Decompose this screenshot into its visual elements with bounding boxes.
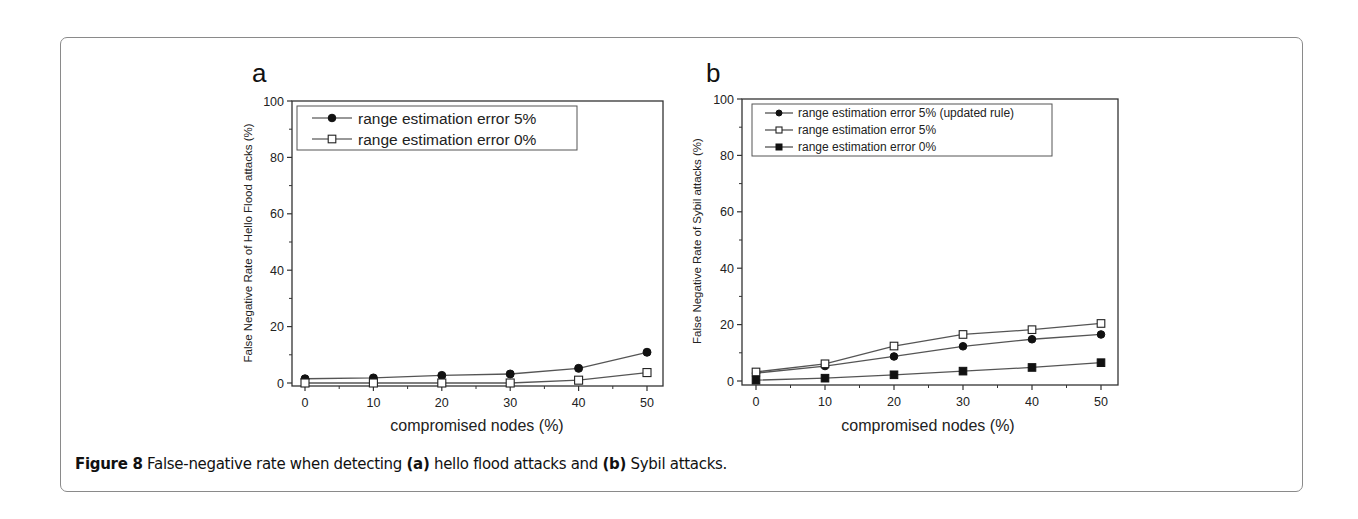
data-point: [575, 364, 583, 372]
x-tick-label: 10: [366, 396, 380, 410]
data-point: [1028, 335, 1036, 343]
data-point: [959, 367, 967, 375]
data-point: [821, 360, 829, 368]
figure-caption: Figure 8 False-negative rate when detect…: [75, 455, 727, 473]
data-point: [890, 371, 898, 379]
legend-b: range estimation error 5% (updated rule)…: [752, 104, 1052, 156]
legend-label: range estimation error 0%: [358, 131, 537, 148]
x-tick-label: 10: [818, 395, 832, 409]
data-point: [959, 343, 967, 351]
caption-end: Sybil attacks.: [626, 455, 727, 473]
legend-label: range estimation error 5%: [358, 110, 537, 127]
panel-label-a: a: [252, 58, 267, 88]
y-tick-label: 40: [270, 264, 284, 278]
x-tick-label: 0: [302, 396, 309, 410]
y-tick-label: 40: [720, 262, 734, 276]
data-point: [438, 379, 446, 387]
data-point: [643, 369, 651, 377]
data-point: [959, 331, 967, 339]
series-group-b: [752, 320, 1105, 384]
data-point: [1028, 326, 1036, 334]
data-point: [369, 379, 377, 387]
data-point: [890, 342, 898, 350]
y-tick-label: 20: [270, 320, 284, 334]
data-point: [1028, 364, 1036, 372]
data-point: [890, 353, 898, 361]
legend-marker-icon: [328, 135, 336, 143]
y-tick-label: 100: [263, 95, 284, 109]
y-tick-label: 0: [277, 377, 284, 391]
y-tick-label: 80: [270, 151, 284, 165]
x-axis-title-a: compromised nodes (%): [390, 417, 563, 434]
caption-mid: hello flood attacks and: [429, 455, 602, 473]
legend-label: range estimation error 5%: [798, 123, 936, 137]
data-point: [643, 348, 651, 356]
series-group-a: [301, 348, 651, 387]
data-point: [301, 379, 309, 387]
legend-a: range estimation error 5%range estimatio…: [297, 106, 577, 150]
x-tick-label: 50: [640, 396, 654, 410]
caption-text: False-negative rate when detecting: [143, 455, 407, 473]
x-tick-label: 30: [956, 395, 970, 409]
series-0: [752, 331, 1105, 377]
x-tick-label: 30: [503, 396, 517, 410]
legend-marker-icon: [776, 127, 782, 133]
x-tick-label: 50: [1094, 395, 1108, 409]
x-tick-label: 20: [887, 395, 901, 409]
y-tick-label: 60: [270, 207, 284, 221]
y-axis-title-b: False Negative Rate of Sybil attacks (%): [691, 138, 703, 344]
x-tick-label: 40: [572, 396, 586, 410]
caption-b: (b): [602, 455, 626, 473]
legend-item-0: range estimation error 5% (updated rule): [765, 106, 1014, 120]
data-point: [506, 370, 514, 378]
y-tick-label: 0: [727, 375, 734, 389]
x-axis-title-b: compromised nodes (%): [841, 417, 1014, 434]
legend-marker-icon: [776, 144, 782, 150]
y-tick-label: 80: [720, 149, 734, 163]
data-point: [752, 376, 760, 384]
x-tick-label: 40: [1025, 395, 1039, 409]
data-point: [1097, 320, 1105, 328]
chart-panel-a: a 02040608010001020304050 False Negative…: [242, 58, 663, 434]
data-point: [1097, 359, 1105, 367]
data-point: [438, 371, 446, 379]
caption-a: (a): [407, 455, 430, 473]
legend-label: range estimation error 0%: [798, 140, 936, 154]
series-1: [752, 320, 1105, 376]
data-point: [821, 374, 829, 382]
y-tick-label: 60: [720, 205, 734, 219]
y-tick-label: 20: [720, 318, 734, 332]
series-2: [752, 359, 1105, 384]
legend-marker-icon: [328, 114, 336, 122]
data-point: [1097, 331, 1105, 339]
y-axis-title-a: False Negative Rate of Hello Flood attac…: [242, 123, 254, 362]
chart-panel-b: b 02040608010001020304050 False Negative…: [691, 58, 1118, 434]
legend-label: range estimation error 5% (updated rule): [798, 106, 1014, 120]
figure-charts: a 02040608010001020304050 False Negative…: [0, 0, 1358, 519]
y-tick-label: 100: [713, 93, 734, 107]
data-point: [752, 368, 760, 376]
legend-marker-icon: [776, 110, 782, 116]
panel-label-b: b: [706, 58, 720, 88]
x-tick-label: 0: [753, 395, 760, 409]
x-tick-label: 20: [435, 396, 449, 410]
data-point: [575, 376, 583, 384]
data-point: [506, 379, 514, 387]
caption-label: Figure 8: [75, 455, 143, 473]
